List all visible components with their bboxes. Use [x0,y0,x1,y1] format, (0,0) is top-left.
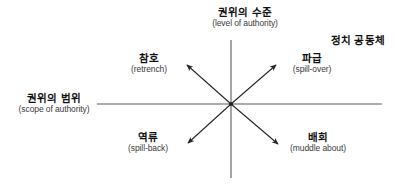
quadrant-label-spill-back: 역류 (spill-back) [112,131,184,153]
political-community-diagram: 권위의 수준 (level of authority) 권위의 범위 (scop… [0,0,403,184]
quadrant-label-spill-back-ko: 역류 [112,131,184,143]
vertical-axis-label-ko: 권위의 수준 [180,6,310,18]
vertical-axis-label-en: (level of authority) [180,18,310,28]
horizontal-axis-label: 권위의 범위 (scope of authority) [2,92,106,114]
vertical-axis-label: 권위의 수준 (level of authority) [180,6,310,28]
arrow-upper-left [187,65,231,104]
quadrant-label-retrench-en: (retrench) [113,64,185,74]
quadrant-label-spill-over-en: (spill-over) [276,64,348,74]
arrow-lower-left [188,104,231,143]
quadrant-label-spill-back-en: (spill-back) [112,143,184,153]
political-community-label: 정치 공동체 [318,34,398,46]
quadrant-label-spill-over: 파급 (spill-over) [276,52,348,74]
horizontal-axis-label-ko: 권위의 범위 [2,92,106,104]
quadrant-label-muddle-about-en: (muddle about) [277,143,359,153]
quadrant-label-muddle-about: 배회 (muddle about) [277,131,359,153]
quadrant-label-muddle-about-ko: 배회 [277,131,359,143]
horizontal-axis-label-en: (scope of authority) [2,104,106,114]
political-community-label-ko: 정치 공동체 [318,34,398,46]
arrow-upper-right [231,65,276,104]
origin-point [229,102,233,106]
quadrant-label-retrench: 참호 (retrench) [113,52,185,74]
quadrant-label-retrench-ko: 참호 [113,52,185,64]
quadrant-label-spill-over-ko: 파급 [276,52,348,64]
arrow-lower-right [231,104,278,144]
